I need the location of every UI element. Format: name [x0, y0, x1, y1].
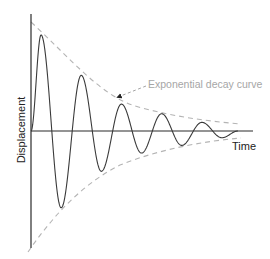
x-axis-label: Time	[232, 140, 256, 152]
annotation-label: Exponential decay curve	[148, 78, 262, 90]
lower-envelope-curve	[28, 138, 241, 252]
damped-oscillation-diagram	[0, 0, 270, 259]
annotation-leader-line	[118, 86, 146, 97]
damped-oscillation-curve	[31, 35, 238, 208]
upper-envelope-curve	[31, 22, 241, 124]
y-axis-label: Displacement	[15, 97, 27, 164]
